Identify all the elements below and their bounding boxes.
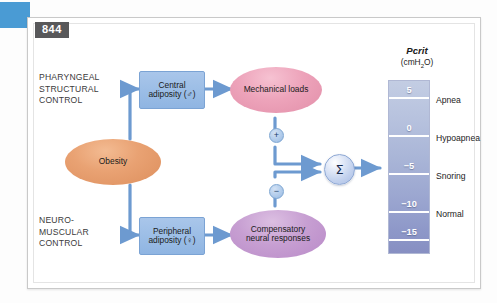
- scale-header: Pcrit (cmH2O): [379, 45, 455, 69]
- scale-tick: [389, 173, 429, 175]
- node-peripheral-adiposity[interactable]: Peripheral adiposity (♀): [139, 217, 205, 255]
- severity-label-snoring: Snoring: [436, 171, 466, 181]
- scale-value-minus15: −15: [389, 228, 429, 237]
- scale-tick: [389, 97, 429, 99]
- scale-value-0: 0: [389, 124, 429, 133]
- scale-tick: [389, 135, 429, 137]
- scale-value-minus5: −5: [389, 162, 429, 171]
- scale-value-5: 5: [389, 86, 429, 95]
- severity-label-apnea: Apnea: [436, 95, 461, 105]
- scale-value-minus10: −10: [389, 200, 429, 209]
- operator-plus-icon: +: [269, 128, 284, 143]
- label-pharyngeal-structural-control: PHARYNGEAL STRUCTURAL CONTROL: [39, 72, 100, 107]
- scale-tick: [389, 211, 429, 213]
- scale-tick: [389, 239, 429, 241]
- severity-label-hypoapnea: Hypoapnea: [436, 133, 480, 143]
- node-mechanical-loads[interactable]: Mechanical loads: [230, 67, 322, 113]
- pcrit-scale-bar: 5 0 −5 −10 −15: [388, 80, 430, 254]
- label-neuromuscular-control: NEURO- MUSCULAR CONTROL: [39, 215, 89, 250]
- page-edge-tab: [0, 2, 30, 28]
- summing-junction-sigma: Σ: [324, 154, 355, 185]
- node-compensatory-neural-responses[interactable]: Compensatory neural responses: [230, 210, 326, 258]
- scale-units: (cmH2O): [379, 57, 455, 69]
- node-obesity[interactable]: Obesity: [65, 139, 161, 185]
- severity-label-normal: Normal: [436, 209, 464, 219]
- node-central-adiposity[interactable]: Central adiposity (♂): [139, 71, 205, 109]
- operator-minus-icon: −: [269, 184, 284, 199]
- scale-title: Pcrit: [379, 45, 455, 56]
- diagram-canvas: PHARYNGEAL STRUCTURAL CONTROL NEURO- MUS…: [27, 17, 479, 287]
- page-container: 844: [0, 0, 497, 303]
